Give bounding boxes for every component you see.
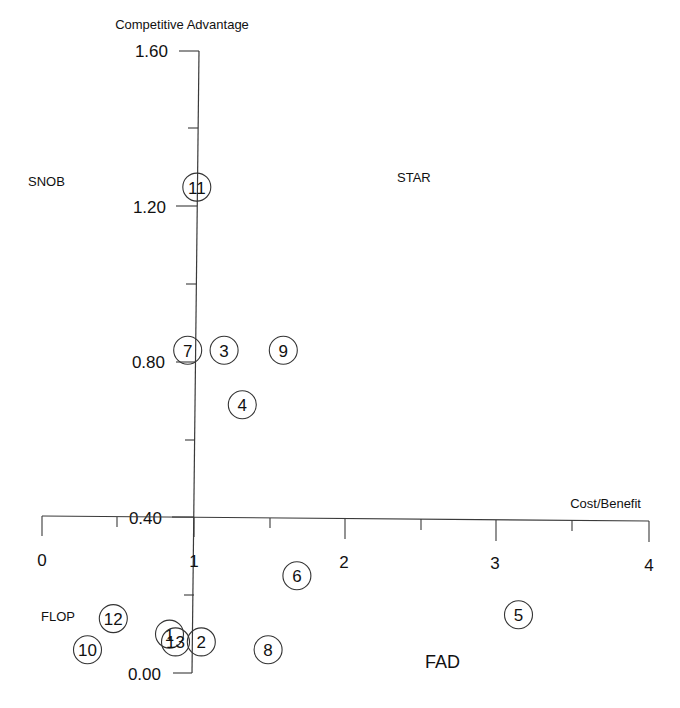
point-label: 9 bbox=[279, 342, 288, 361]
point-label: 11 bbox=[188, 179, 206, 198]
data-point: 10 bbox=[74, 636, 102, 664]
y-tick-label: 0.80 bbox=[132, 353, 165, 372]
point-label: 3 bbox=[219, 342, 228, 361]
point-label: 4 bbox=[238, 396, 247, 415]
point-label: 7 bbox=[183, 342, 192, 361]
data-point: 11 bbox=[183, 173, 211, 201]
y-axis-title: Competitive Advantage bbox=[115, 17, 249, 32]
data-point: 7 bbox=[174, 336, 202, 364]
point-label: 12 bbox=[104, 610, 123, 629]
x-tick-label: 4 bbox=[644, 556, 653, 575]
data-point: 5 bbox=[505, 601, 533, 629]
x-axis-title: Cost/Benefit bbox=[570, 496, 641, 511]
data-point: 9 bbox=[269, 336, 297, 364]
data-point: 12 bbox=[99, 605, 127, 633]
y-tick-label: 1.60 bbox=[135, 42, 168, 61]
data-points: 11739465121011328 bbox=[74, 173, 533, 664]
quadrant-label-star: STAR bbox=[397, 170, 431, 185]
x-tick-label: 3 bbox=[490, 554, 499, 573]
x-tick-label: 2 bbox=[339, 553, 348, 572]
point-label: 10 bbox=[78, 641, 97, 660]
quadrant-label-fad: FAD bbox=[425, 652, 460, 672]
data-point: 3 bbox=[210, 336, 238, 364]
quadrant-label-flop: FLOP bbox=[41, 609, 75, 624]
x-tick-label: 0 bbox=[37, 551, 46, 570]
y-tick-label: 0.00 bbox=[128, 665, 161, 684]
data-point: 2 bbox=[187, 628, 215, 656]
point-label: 6 bbox=[292, 567, 301, 586]
data-point: 13 bbox=[162, 628, 190, 656]
data-point: 4 bbox=[228, 391, 256, 419]
x-axis: 0 1 2 3 4 Cost/Benefit bbox=[37, 496, 653, 575]
point-label: 13 bbox=[166, 633, 185, 652]
point-label: 8 bbox=[263, 641, 272, 660]
data-point: 8 bbox=[254, 636, 282, 664]
point-label: 5 bbox=[514, 606, 523, 625]
quadrant-labels: SNOB STAR FLOP FAD bbox=[28, 170, 460, 672]
quadrant-label-snob: SNOB bbox=[28, 174, 65, 189]
y-tick-label: 1.20 bbox=[133, 198, 166, 217]
point-label: 2 bbox=[197, 633, 206, 652]
x-tick-label: 1 bbox=[189, 552, 198, 571]
y-tick-label: 0.40 bbox=[129, 509, 162, 528]
data-point: 6 bbox=[283, 562, 311, 590]
scatter-chart: 1.60 1.20 0.80 0.40 0.00 Competitive Adv… bbox=[0, 0, 680, 708]
